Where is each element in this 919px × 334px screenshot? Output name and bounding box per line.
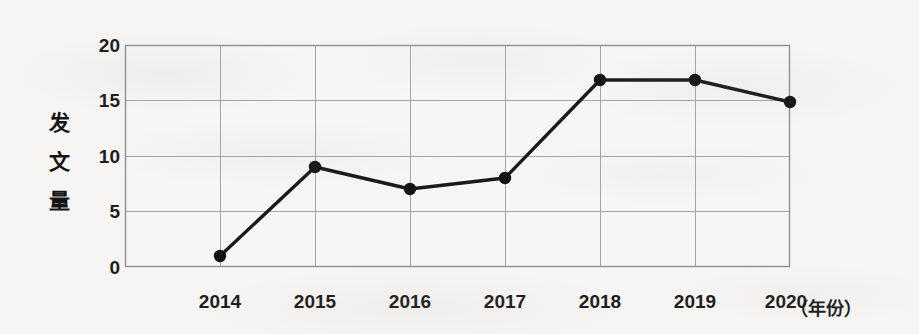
- data-point-2015[interactable]: [309, 161, 321, 173]
- data-point-2019[interactable]: [689, 74, 701, 86]
- ytick-label-5: 5: [78, 202, 120, 221]
- xtick-label-2015: 2015: [270, 292, 360, 311]
- data-point-2017[interactable]: [499, 172, 511, 184]
- chart-figure: 20 15 10 5 0 发 文 量 2014 2015 2016 2017 2…: [0, 0, 919, 334]
- y-axis-title-char-3: 量: [44, 182, 74, 221]
- x-axis-unit-label: （年份）: [790, 294, 862, 320]
- ytick-label-0: 0: [78, 258, 120, 277]
- xtick-label-2017: 2017: [460, 292, 550, 311]
- data-point-2016[interactable]: [404, 183, 416, 195]
- xtick-label-2016: 2016: [365, 292, 455, 311]
- xtick-label-2014: 2014: [175, 292, 265, 311]
- xtick-label-2019: 2019: [650, 292, 740, 311]
- data-point-2018[interactable]: [594, 74, 606, 86]
- ytick-label-10: 10: [78, 147, 120, 166]
- data-point-2020[interactable]: [784, 96, 796, 108]
- y-axis-title-char-2: 文: [44, 143, 74, 182]
- y-axis-title: 发 文 量: [44, 104, 74, 221]
- data-point-2014[interactable]: [214, 250, 226, 262]
- ytick-label-20: 20: [78, 36, 120, 55]
- y-axis-title-char-1: 发: [44, 104, 74, 143]
- line-chart-canvas: [0, 0, 919, 334]
- xtick-label-2018: 2018: [555, 292, 645, 311]
- ytick-label-15: 15: [78, 91, 120, 110]
